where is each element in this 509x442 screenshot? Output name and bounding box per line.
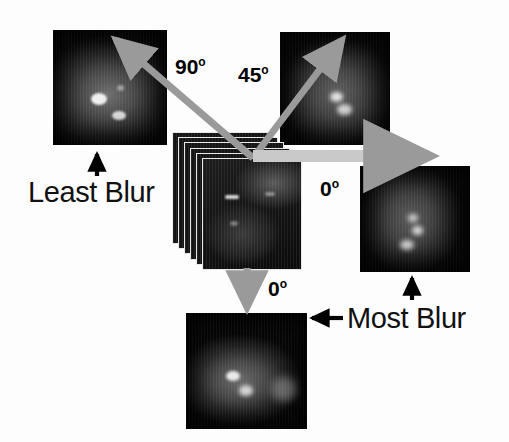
most-blur-label: Most Blur bbox=[347, 304, 466, 333]
degree-symbol: o bbox=[198, 55, 205, 69]
degree-symbol: o bbox=[332, 177, 339, 191]
angle-value: 45 bbox=[238, 63, 261, 86]
slice-layer-front bbox=[202, 158, 302, 270]
mri-blur-direction-figure: 90o 45o 0o 0o Least Blur Most Blur bbox=[0, 0, 509, 442]
angle-label-45: 45o bbox=[238, 64, 269, 85]
degree-symbol: o bbox=[261, 63, 268, 77]
angle-value: 0 bbox=[320, 177, 332, 200]
angle-value: 90 bbox=[175, 55, 198, 78]
angle-label-0-bottom: 0o bbox=[268, 278, 287, 299]
angle-label-0-right: 0o bbox=[320, 178, 339, 199]
scanline-texture bbox=[203, 159, 301, 269]
least-blur-label: Least Blur bbox=[28, 178, 155, 207]
angle-value: 0 bbox=[268, 277, 280, 300]
degree-symbol: o bbox=[280, 277, 287, 291]
angle-label-90: 90o bbox=[175, 56, 206, 77]
